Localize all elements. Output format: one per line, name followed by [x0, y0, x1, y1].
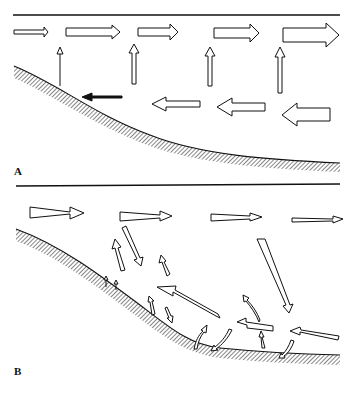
tapered-right-arrow-icon — [30, 207, 84, 219]
up-arrow-icon — [205, 47, 215, 86]
left-arrow-icon — [282, 103, 330, 126]
curved-up-arrow-icon — [112, 239, 125, 271]
tapered-right-arrow-icon — [211, 213, 262, 221]
left-arrow-icon — [152, 97, 200, 111]
panel-a — [13, 15, 340, 186]
left-arrow-icon — [217, 98, 265, 116]
right-arrow-icon — [14, 27, 48, 37]
tapered-right-arrow-icon — [292, 216, 343, 223]
down-arrow-icon — [122, 226, 143, 266]
left-arrow-icon — [157, 286, 220, 318]
panel-b — [16, 207, 343, 365]
right-arrow-icon — [138, 24, 178, 40]
up-arrow-icon — [275, 47, 285, 93]
right-arrow-icon — [66, 25, 120, 39]
right-arrow-icon — [214, 24, 259, 42]
up-arrow-icon — [129, 44, 139, 84]
down-arrow-icon — [257, 239, 293, 313]
water-surface-line-b — [16, 184, 340, 186]
up-arrow-icon — [259, 331, 265, 348]
right-arrow-icon — [283, 23, 339, 47]
panel-label-b: B — [14, 365, 21, 377]
curved-down-arrow-icon — [165, 307, 173, 323]
up-arrow-icon — [57, 47, 63, 86]
left-arrow-icon — [237, 318, 273, 331]
flow-diagram — [0, 0, 357, 401]
up-arrow-icon — [159, 255, 170, 276]
panel-label-a: A — [14, 165, 22, 177]
left-arrow-icon — [82, 93, 122, 101]
tapered-right-arrow-icon — [120, 211, 172, 221]
left-arrow-icon — [290, 327, 339, 340]
